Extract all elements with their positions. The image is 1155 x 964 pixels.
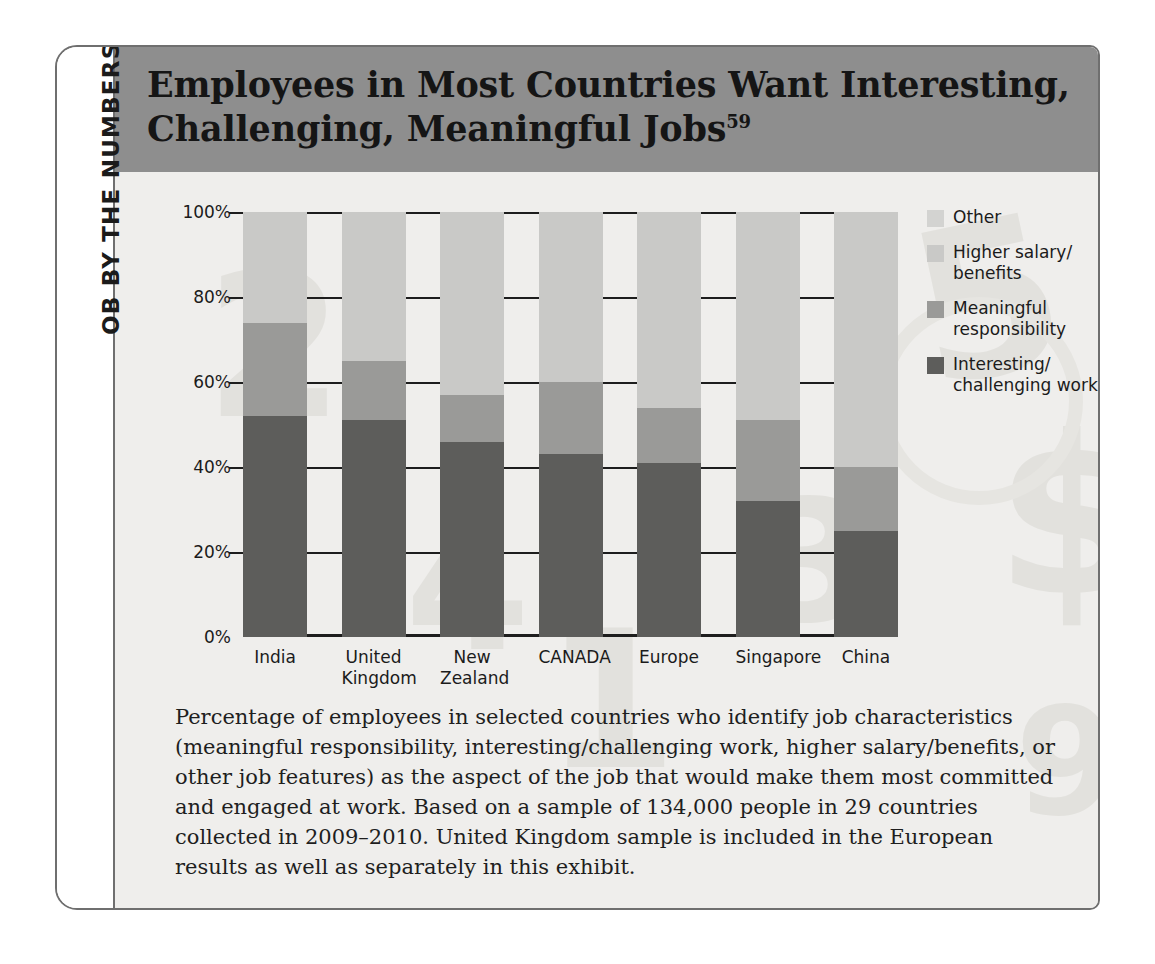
bar-segment-salary [637, 212, 701, 408]
title-footnote-marker: 59 [726, 111, 751, 132]
bar-segment-salary [539, 212, 603, 382]
legend-item[interactable]: Interesting/challenging work [927, 354, 1098, 396]
y-tick-label: 0% [123, 627, 243, 647]
bar-series-container [243, 212, 898, 637]
legend-swatch [927, 210, 944, 227]
y-tick-label: 20% [123, 542, 243, 562]
bar-segment-salary [440, 212, 504, 395]
legend-label: Other [953, 207, 1001, 228]
bar-segment-meaning [637, 408, 701, 463]
bar-segment-meaning [440, 395, 504, 442]
legend-item[interactable]: Higher salary/benefits [927, 242, 1098, 284]
bar-segment-meaning [342, 361, 406, 421]
bar-segment-salary [243, 212, 307, 323]
y-tick-label: 60% [123, 372, 243, 392]
legend-label: Higher salary/benefits [953, 242, 1072, 284]
bar-segment-interest [736, 501, 800, 637]
bar-china[interactable] [834, 212, 898, 637]
bar-singapore[interactable] [736, 212, 800, 637]
bar-segment-interest [637, 463, 701, 637]
figure-header: Employees in Most Countries Want Interes… [115, 47, 1098, 172]
bar-india[interactable] [243, 212, 307, 637]
bar-europe[interactable] [637, 212, 701, 637]
page-title: Employees in Most Countries Want Interes… [147, 63, 1077, 151]
legend-swatch [927, 301, 944, 318]
title-line-1: Employees in Most Countries Want Interes… [147, 64, 1070, 105]
bar-segment-salary [342, 212, 406, 361]
bar-segment-interest [539, 454, 603, 637]
bar-segment-interest [834, 531, 898, 637]
title-line-2: Challenging, Meaningful Jobs [147, 108, 726, 149]
legend-item[interactable]: Meaningfulresponsibility [927, 298, 1098, 340]
ob-by-the-numbers-figure: OB BY THE NUMBERS 5 2 4 3 $ 9 1 Employee… [55, 45, 1100, 910]
section-tab-label: OB BY THE NUMBERS [98, 45, 124, 335]
bar-segment-interest [243, 416, 307, 637]
bar-segment-meaning [243, 323, 307, 417]
y-tick-label: 80% [123, 287, 243, 307]
bar-segment-meaning [539, 382, 603, 454]
chart-legend: OtherHigher salary/benefitsMeaningfulres… [927, 207, 1098, 410]
y-tick-label: 100% [123, 202, 243, 222]
plot-region: 0%20%40%60%80%100% [243, 212, 898, 637]
bar-segment-salary [736, 212, 800, 420]
bar-segment-meaning [834, 467, 898, 531]
figure-caption: Percentage of employees in selected coun… [115, 682, 1098, 908]
legend-item[interactable]: Other [927, 207, 1098, 228]
bar-canada[interactable] [539, 212, 603, 637]
bar-segment-meaning [736, 420, 800, 501]
y-tick-label: 40% [123, 457, 243, 477]
bar-segment-salary [834, 212, 898, 467]
legend-label: Interesting/challenging work [953, 354, 1098, 396]
bar-segment-interest [342, 420, 406, 637]
legend-swatch [927, 245, 944, 262]
bar-united-kingdom[interactable] [342, 212, 406, 637]
legend-label: Meaningfulresponsibility [953, 298, 1066, 340]
bar-segment-interest [440, 442, 504, 638]
bar-new-zealand[interactable] [440, 212, 504, 637]
figure-panel: 5 2 4 3 $ 9 1 Employees in Most Countrie… [115, 47, 1098, 908]
section-tab: OB BY THE NUMBERS [57, 47, 115, 908]
legend-swatch [927, 357, 944, 374]
